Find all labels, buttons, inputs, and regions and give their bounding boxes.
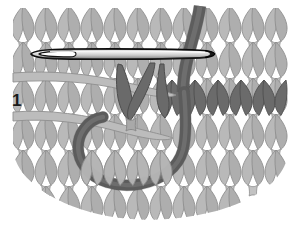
knitting-illustration	[0, 0, 293, 228]
step-number-label: 1	[12, 92, 21, 109]
illustration-canvas: 1	[0, 0, 293, 228]
tapestry-needle	[31, 49, 215, 59]
